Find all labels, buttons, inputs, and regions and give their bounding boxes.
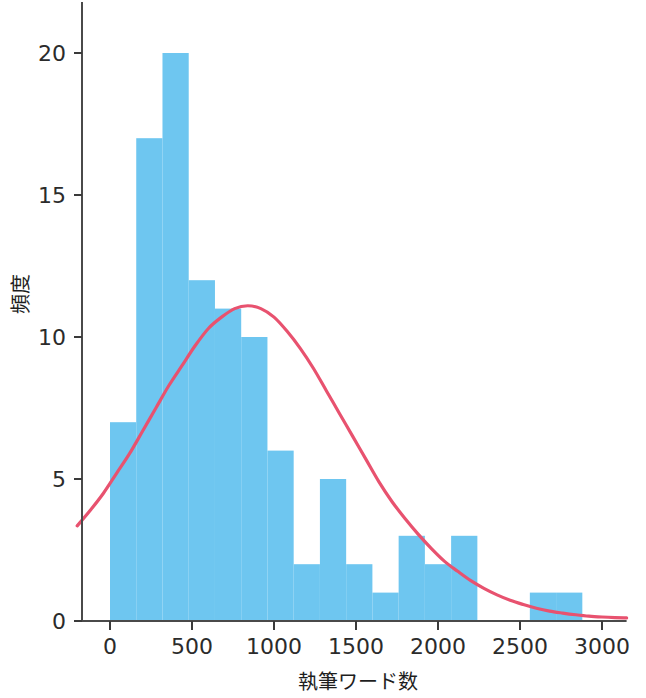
x-tick-label: 3000	[574, 634, 630, 659]
histogram-bar	[215, 309, 241, 621]
y-tick-label: 20	[38, 41, 66, 66]
chart-canvas: 05101520 050010001500200025003000 執筆ワード数…	[0, 0, 646, 698]
y-tick-label: 10	[38, 325, 66, 350]
y-tick-label: 5	[52, 467, 66, 492]
histogram-bar	[346, 564, 372, 621]
histogram-bar	[399, 536, 425, 621]
x-tick-label: 1000	[246, 634, 302, 659]
histogram-bar	[425, 564, 451, 621]
x-tick-label: 2000	[410, 634, 466, 659]
histogram-bar	[162, 53, 188, 621]
histogram-figure: 05101520 050010001500200025003000 執筆ワード数…	[0, 0, 646, 698]
x-tick-label: 2500	[492, 634, 548, 659]
histogram-bar	[267, 451, 293, 621]
x-tick-label: 500	[171, 634, 213, 659]
histogram-bar	[189, 280, 215, 621]
histogram-bar	[451, 536, 477, 621]
histogram-bar	[136, 138, 162, 621]
y-tick-label: 15	[38, 183, 66, 208]
y-axis-title: 頻度	[9, 274, 33, 314]
histogram-bar	[556, 593, 582, 621]
x-tick-label: 1500	[328, 634, 384, 659]
x-tick-label: 0	[103, 634, 117, 659]
histogram-bar	[294, 564, 320, 621]
histogram-bar	[320, 479, 346, 621]
y-tick-label: 0	[52, 609, 66, 634]
histogram-bar	[241, 337, 267, 621]
x-axis-title: 執筆ワード数	[298, 670, 418, 694]
histogram-bar	[372, 593, 398, 621]
